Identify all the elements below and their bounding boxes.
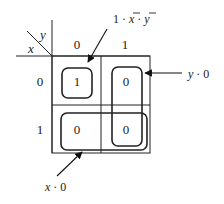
col-header-0: 0 — [74, 37, 81, 52]
svg-text:1 · x · y: 1 · x · y — [113, 12, 150, 26]
row-variable-label: x — [27, 41, 34, 56]
cell-1-1: 0 — [123, 122, 130, 137]
col-header-1: 1 — [122, 37, 129, 52]
annotation-right: y · 0 — [187, 67, 209, 81]
arrow-top — [88, 29, 107, 62]
cell-1-0: 0 — [74, 122, 81, 137]
kmap-grid — [52, 56, 150, 153]
cell-0-0: 1 — [74, 74, 81, 89]
col-variable-label: y — [38, 27, 46, 42]
annotation-bottom: x · 0 — [44, 180, 66, 194]
row-header-0: 0 — [37, 74, 44, 89]
karnaugh-map: y x 0 1 0 1 1 0 0 0 1 · x · y y · 0 x · … — [0, 0, 224, 204]
arrow-bottom — [57, 152, 82, 176]
annotation-top: 1 · x · y — [113, 12, 156, 26]
cell-0-1: 0 — [123, 74, 130, 89]
row-header-1: 1 — [37, 122, 44, 137]
